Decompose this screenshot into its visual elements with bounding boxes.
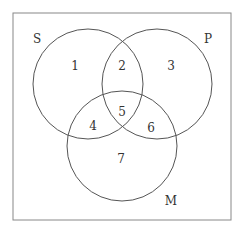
set-label-m: M: [165, 194, 177, 208]
set-label-s: S: [33, 32, 41, 46]
region-label-6: 6: [147, 121, 155, 135]
region-label-4: 4: [89, 119, 97, 133]
circle-s: [33, 29, 143, 139]
region-label-2: 2: [118, 59, 126, 73]
circle-p: [102, 29, 212, 139]
region-label-1: 1: [71, 59, 79, 73]
region-label-7: 7: [117, 152, 125, 166]
venn-diagram: 1234567SPM: [0, 0, 241, 236]
set-label-p: P: [204, 32, 212, 46]
region-label-3: 3: [167, 59, 175, 73]
region-label-5: 5: [118, 105, 126, 119]
